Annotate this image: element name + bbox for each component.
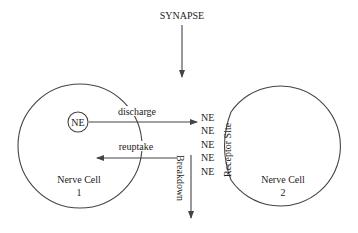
synapse-title: SYNAPSE — [160, 10, 204, 21]
cleft-ne-5: NE — [201, 166, 214, 177]
cell-2-number: 2 — [281, 187, 286, 198]
nerve-cell-2 — [231, 86, 340, 206]
cell-1-label: Nerve Cell — [57, 174, 101, 185]
receptor-site-label: Receptor Site — [222, 122, 233, 177]
cell-1-number: 1 — [77, 187, 82, 198]
cell-2-label: Nerve Cell — [261, 174, 305, 185]
cleft-ne-4: NE — [201, 152, 214, 163]
vesicle-label: NE — [71, 117, 84, 128]
cleft-ne-1: NE — [201, 112, 214, 123]
breakdown-label: Breakdown — [175, 155, 186, 201]
cleft-ne-3: NE — [201, 139, 214, 150]
synapse-diagram: SYNAPSE NE Nerve Cell 1 discharge reupta… — [0, 0, 358, 233]
cleft-ne-2: NE — [201, 125, 214, 136]
reuptake-label: reuptake — [119, 141, 154, 152]
discharge-label: discharge — [118, 106, 157, 117]
